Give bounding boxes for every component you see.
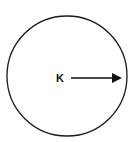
center-label: K: [56, 72, 64, 84]
arrow-head-icon: [112, 73, 122, 83]
circle: [7, 16, 127, 136]
circle-diagram: K: [0, 0, 136, 142]
